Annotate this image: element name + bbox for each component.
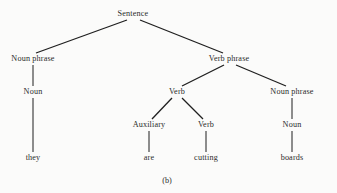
tree-node-noun-left: Noun <box>24 88 43 96</box>
tree-node-sentence: Sentence <box>118 10 149 18</box>
edges-group <box>33 20 292 152</box>
figure-caption: (b) <box>162 176 172 185</box>
edge-verb-verb-lower <box>182 98 203 119</box>
tree-node-verb-upper: Verb <box>169 88 185 96</box>
tree-node-word-boards: boards <box>281 154 304 162</box>
tree-node-word-they: they <box>26 154 41 162</box>
syntax-tree-figure: SentenceNoun phraseVerb phraseNounVerbNo… <box>0 0 337 193</box>
edge-vp-verb <box>182 65 224 86</box>
edge-sentence-vp <box>140 20 223 53</box>
tree-node-np-right: Noun phrase <box>270 88 313 96</box>
tree-node-word-are: are <box>144 154 154 162</box>
tree-node-auxiliary: Auxiliary <box>133 121 166 129</box>
tree-node-np-left: Noun phrase <box>11 55 54 63</box>
edge-vp-np-right <box>236 65 286 86</box>
tree-node-vp: Verb phrase <box>209 55 250 63</box>
tree-edges-layer <box>0 0 337 193</box>
edge-verb-auxiliary <box>152 98 172 119</box>
tree-node-verb-lower: Verb <box>198 121 214 129</box>
tree-node-noun-right: Noun <box>283 121 302 129</box>
tree-node-word-cutting: cutting <box>194 154 218 162</box>
edge-sentence-np-left <box>36 20 127 53</box>
